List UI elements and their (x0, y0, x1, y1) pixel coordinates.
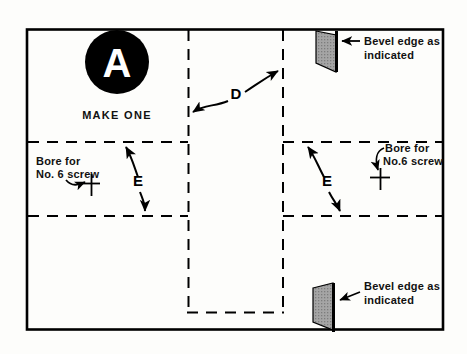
bore-left-label-line2: No. 6 screw (36, 168, 100, 180)
bevel-flap-bottom (313, 283, 333, 330)
technical-drawing: A MAKE ONE D E E Bore for No. 6 screw Bo… (0, 0, 467, 354)
make-one-note: MAKE ONE (82, 109, 152, 121)
plan-diagram: A MAKE ONE D E E Bore for No. 6 screw Bo… (0, 0, 467, 354)
bevel-top-label-line2: indicated (364, 49, 414, 61)
dimension-d-label: D (231, 85, 242, 102)
part-badge-letter: A (103, 41, 132, 85)
bevel-top-label-line1: Bevel edge as (364, 35, 440, 47)
bore-right-label-line1: Bore for (385, 142, 430, 154)
bore-left-label-line1: Bore for (36, 155, 81, 167)
bevel-bottom-label-line2: indicated (364, 294, 414, 306)
bevel-bottom-label-line1: Bevel edge as (364, 280, 440, 292)
bore-right-label-line2: No.6 screw (383, 155, 443, 167)
